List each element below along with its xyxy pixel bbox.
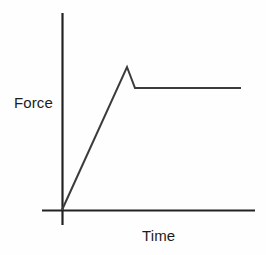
x-axis-label: Time: [142, 227, 175, 244]
chart-background: [0, 0, 266, 255]
force-time-chart: Force Time: [0, 0, 266, 255]
y-axis-label: Force: [14, 94, 53, 111]
plot-area: [0, 0, 266, 255]
